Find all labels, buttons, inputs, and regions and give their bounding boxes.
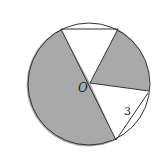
center-label: O — [78, 81, 88, 95]
circle-diagram: O 3 — [0, 0, 165, 160]
length-label: 3 — [124, 105, 131, 118]
